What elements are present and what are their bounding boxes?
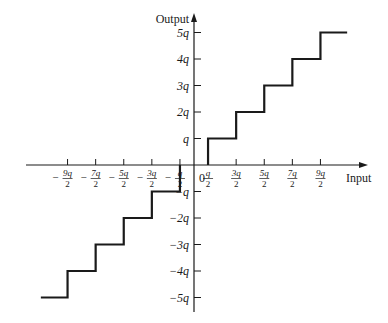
y-axis-arrowhead [191,13,197,22]
minus-sign: − [109,171,115,183]
x-tick-label: −5q2 [109,168,129,189]
x-axis-arrowhead [359,162,368,168]
quantizer-diagram: −9q2−7q2−5q2−3q2−q2q23q25q27q29q2 5q4q3q… [0,0,388,323]
fraction-numerator: 5q [119,168,129,178]
fraction-numerator: 3q [231,168,242,178]
fraction-denominator: 2 [234,179,239,189]
x-tick-label: 7q2 [287,168,297,189]
fraction-denominator: 2 [318,179,323,189]
fraction-denominator: 2 [122,179,127,189]
fraction-numerator: 7q [91,168,101,178]
y-tick-label: −3q [169,238,189,252]
fraction-denominator: 2 [65,179,70,189]
fraction-denominator: 2 [290,179,295,189]
y-tick-label: −5q [169,291,189,305]
fraction-numerator: 7q [288,168,298,178]
y-tick-label: 2q [177,105,189,119]
minus-sign: − [80,171,86,183]
x-tick-label: 5q2 [259,168,269,189]
fraction-numerator: q [206,168,211,178]
fraction-numerator: 9q [63,168,73,178]
y-tick-label: 4q [177,52,189,66]
fraction-denominator: 2 [206,179,211,189]
fraction-denominator: 2 [262,179,267,189]
minus-sign: − [52,171,58,183]
x-tick-label: 3q2 [231,168,242,189]
x-tick-label: 9q2 [315,168,325,189]
y-axis-label: Output [156,12,190,26]
y-tick-label: −q [175,185,189,199]
origin-label: 0 [199,171,205,185]
x-tick-label: −9q2 [52,168,72,189]
fraction-denominator: 2 [150,179,155,189]
y-tick-label: q [183,132,189,146]
fraction-numerator: 5q [260,168,270,178]
minus-sign: − [165,171,171,183]
y-tick-label: 5q [177,26,189,40]
y-tick-label: 3q [176,79,189,93]
y-tick-label: −4q [169,264,189,278]
fraction-denominator: 2 [93,179,98,189]
x-tick-label: −3q2 [137,168,157,189]
x-tick-label: −7q2 [80,168,100,189]
minus-sign: − [137,171,143,183]
fraction-numerator: q [178,168,183,178]
fraction-numerator: 9q [316,168,326,178]
x-axis-label: Input [346,171,372,185]
fraction-numerator: 3q [146,168,157,178]
y-tick-label: −2q [169,211,189,225]
